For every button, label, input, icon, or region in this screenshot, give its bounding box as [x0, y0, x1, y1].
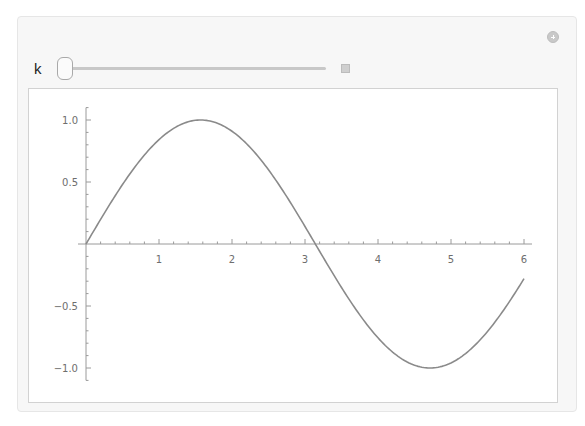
y-tick-label: −1.0	[54, 363, 78, 374]
plot-axes	[78, 108, 532, 381]
x-tick-label: 3	[302, 254, 308, 265]
x-tick-label: 5	[448, 254, 454, 265]
x-tick-label: 4	[375, 254, 381, 265]
x-tick-label: 1	[156, 254, 162, 265]
y-tick-label: −0.5	[54, 301, 78, 312]
x-tick-label: 2	[229, 254, 235, 265]
y-tick-label: 1.0	[62, 115, 78, 126]
y-tick-label: 0.5	[62, 177, 78, 188]
sine-plot: 1234561.00.5−0.5−1.0	[0, 0, 585, 426]
x-tick-label: 6	[521, 254, 527, 265]
